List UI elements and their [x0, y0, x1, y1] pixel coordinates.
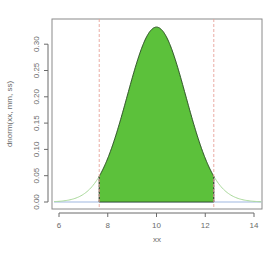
y-tick-label: 0.20	[32, 88, 41, 104]
y-axis: 0.000.050.100.150.200.250.30	[32, 36, 48, 210]
density-plot: 68101214 0.000.050.100.150.200.250.30 xx…	[0, 0, 279, 258]
shaded-area	[99, 27, 214, 202]
y-tick-label: 0.05	[32, 167, 41, 183]
y-axis-title: dnorm(xx, mm, ss)	[5, 81, 14, 148]
y-tick-label: 0.30	[32, 36, 41, 52]
y-tick-label: 0.15	[32, 115, 41, 131]
x-tick-label: 10	[152, 221, 161, 230]
y-tick-label: 0.10	[32, 141, 41, 157]
x-tick-label: 6	[57, 221, 62, 230]
shaded-density-region	[99, 27, 214, 202]
x-tick-label: 14	[250, 221, 259, 230]
x-tick-label: 8	[106, 221, 111, 230]
y-tick-label: 0.25	[32, 62, 41, 78]
x-axis: 68101214	[57, 213, 259, 230]
y-tick-label: 0.00	[32, 194, 41, 210]
x-axis-title: xx	[153, 235, 161, 244]
x-tick-label: 12	[201, 221, 210, 230]
